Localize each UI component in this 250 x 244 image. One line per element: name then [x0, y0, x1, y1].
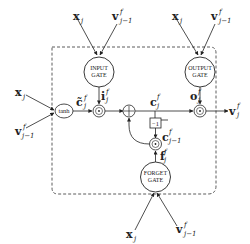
forget-gate-line2: GATE: [148, 177, 164, 183]
output-gate-v-sup: f: [218, 8, 223, 16]
tanh-x-label: x: [15, 86, 22, 99]
tanh-v-sub: j−1: [20, 132, 35, 140]
c-sup: f: [156, 93, 161, 101]
output-gate-x-label: x: [172, 10, 179, 23]
c-prev-label: c: [162, 131, 169, 144]
c-tilde-label: c̃: [76, 96, 83, 109]
o-sup: f: [197, 88, 202, 96]
delay-box: −1: [150, 118, 161, 128]
forget-v-label: v: [175, 223, 183, 236]
output-gate-v-label: v: [210, 10, 218, 23]
output-gate-v-sub: j−1: [217, 17, 232, 25]
input-gate-v-label: v: [111, 10, 119, 23]
tanh-v-label: v: [14, 125, 22, 138]
i-sup: f: [105, 88, 110, 96]
add-node: [123, 105, 135, 117]
c-tilde-sup: f: [83, 94, 88, 102]
output-gate-line1: OUTPUT: [188, 65, 212, 71]
forget-x-label: x: [126, 228, 133, 241]
tanh-label: tanh: [58, 107, 70, 114]
c-label: c: [150, 96, 157, 109]
input-gate-v-sub: j−1: [118, 17, 133, 25]
c-prev-sub: j−1: [167, 137, 182, 145]
v-out-sub: j: [235, 111, 240, 119]
input-gate-line1: INPUT: [90, 65, 108, 71]
multiply-node-forget: [150, 138, 162, 150]
c-tilde-sub: j: [82, 102, 87, 110]
f-sup: f: [163, 148, 168, 156]
multiply-node-input: [93, 105, 105, 117]
forget-gate-line1: FORGET: [144, 170, 168, 176]
forget-v-sub: j−1: [182, 230, 197, 238]
input-gate-x-label: x: [73, 10, 80, 23]
tanh-v-sup: f: [22, 123, 27, 131]
multiply-node-output: [194, 105, 206, 117]
input-gate-line2: GATE: [91, 72, 107, 78]
i-label: i: [101, 90, 105, 103]
output-gate-line2: GATE: [192, 72, 208, 78]
tanh-node: tanh: [55, 104, 73, 118]
v-out-sup: f: [236, 102, 241, 110]
forget-x-sub: j: [132, 235, 137, 243]
o-label: o: [190, 90, 197, 103]
delay-label: −1: [152, 120, 159, 127]
forget-gate: FORGET GATE: [135, 151, 177, 230]
input-gate: INPUT GATE: [78, 20, 117, 104]
input-gate-v-sup: f: [119, 8, 124, 16]
tanh-x-sub: j: [21, 93, 26, 101]
output-gate-x-sub: j: [178, 17, 183, 25]
lstm-diagram: INPUT GATE x j v f j−1 i f j OUTPUT GATE…: [0, 0, 250, 244]
c-prev-sup: f: [168, 128, 173, 136]
forget-v-sup: f: [183, 221, 188, 229]
v-out-label: v: [228, 105, 236, 118]
